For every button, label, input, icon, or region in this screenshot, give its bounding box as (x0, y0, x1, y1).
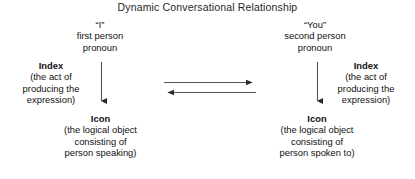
right-icon-line3: consisting of (238, 136, 396, 147)
left-pronoun-term: “I” (40, 19, 160, 30)
left-icon-line4: person speaking) (23, 147, 178, 158)
right-pronoun-line2: second person (255, 30, 375, 41)
right-index-line3: producing the (318, 83, 414, 94)
diagram-title: Dynamic Conversational Relationship (0, 1, 415, 13)
right-index-line2: (the act of (318, 71, 414, 82)
right-pronoun-term: “You” (255, 19, 375, 30)
right-icon-line2: (the logical object (238, 124, 396, 135)
right-pronoun-line3: pronoun (255, 42, 375, 53)
left-icon-line3: consisting of (23, 136, 178, 147)
left-pronoun-block: “I” first person pronoun (40, 19, 160, 53)
left-pronoun-line2: first person (40, 30, 160, 41)
left-icon-line2: (the logical object (23, 124, 178, 135)
right-pronoun-block: “You” second person pronoun (255, 19, 375, 53)
right-icon-block: Icon (the logical object consisting of p… (238, 113, 396, 159)
right-icon-line4: person spoken to) (238, 147, 396, 158)
left-index-block: Index (the act of producing the expressi… (2, 60, 100, 106)
left-icon-block: Icon (the logical object consisting of p… (23, 113, 178, 159)
left-index-line2: (the act of (2, 71, 100, 82)
left-index-line3: producing the (2, 83, 100, 94)
right-index-block: Index (the act of producing the expressi… (318, 60, 414, 106)
left-pronoun-line3: pronoun (40, 42, 160, 53)
right-icon-heading: Icon (238, 113, 396, 124)
left-index-heading: Index (2, 60, 100, 71)
left-index-line4: expression) (2, 94, 100, 105)
right-index-line4: expression) (318, 94, 414, 105)
right-index-heading: Index (318, 60, 414, 71)
dynamic-conversational-relationship-diagram: Dynamic Conversational Relationship “I” … (0, 0, 415, 179)
left-icon-heading: Icon (23, 113, 178, 124)
